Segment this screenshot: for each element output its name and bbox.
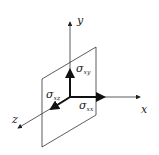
sigma-subscript: xy bbox=[84, 68, 91, 75]
sigma-xx-label: σxx bbox=[79, 100, 93, 112]
sigma-subscript: xx bbox=[87, 105, 94, 112]
sigma-symbol: σ bbox=[46, 88, 54, 101]
x-axis-label: x bbox=[141, 104, 147, 115]
sigma-subscript: xz bbox=[54, 94, 61, 101]
sigma-xy-label: σxy bbox=[76, 63, 90, 75]
sigma-symbol: σ bbox=[76, 62, 84, 75]
sigma-symbol: σ bbox=[79, 99, 87, 112]
stress-diagram: y x z σxy σxx σxz bbox=[0, 0, 159, 155]
y-axis-label: y bbox=[77, 15, 83, 26]
sigma-xz-label: σxz bbox=[46, 89, 60, 101]
z-axis-label: z bbox=[12, 114, 18, 125]
